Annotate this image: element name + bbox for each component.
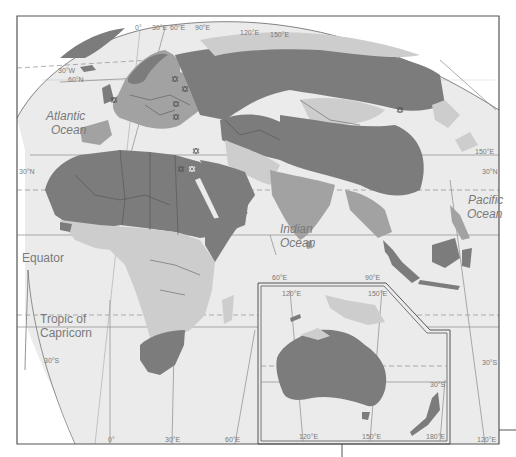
inset-tick-30s: 30°S	[430, 381, 446, 388]
tick-left-30s: 30°S	[44, 357, 60, 364]
world-map: Atlantic Ocean Indian Ocean Pacific Ocea…	[0, 0, 516, 457]
tick-right-30s: 30°S	[482, 359, 498, 366]
tick-left-30n: 30°N	[19, 168, 35, 175]
tick-top-60e: 60°E	[170, 24, 186, 31]
inset-tick-bottom-180e: 180°E	[426, 433, 445, 440]
inset-tick-top-150e: 150°E	[368, 290, 387, 297]
tick-top-30e: 30°E	[152, 24, 168, 31]
tick-bottom-120e: 120°E	[477, 436, 496, 443]
inset-tick-bottom-150e: 150°E	[362, 433, 381, 440]
indian-label-1: Indian	[280, 222, 313, 236]
tick-left-60n: 60°N	[68, 76, 84, 83]
atlantic-label-1: Atlantic	[45, 109, 85, 123]
pacific-label-2: Ocean	[467, 207, 503, 221]
tick-left-30w: 30°W	[58, 67, 76, 74]
tropic-label-2: Capricorn	[40, 326, 92, 340]
indian-label-2: Ocean	[280, 236, 316, 250]
tick-bottom-60e: 60°E	[225, 436, 241, 443]
tropic-label-1: Tropic of	[40, 312, 87, 326]
tick-mid-60e: 60°E	[272, 274, 288, 281]
atlantic-label-2: Ocean	[51, 123, 87, 137]
inset-tick-top-120e: 120°E	[282, 290, 301, 297]
tick-right-150e: 150°E	[475, 148, 494, 155]
tick-bottom-30e: 30°E	[165, 436, 181, 443]
tick-mid-90e: 90°E	[365, 274, 381, 281]
tick-top-0: 0°	[135, 24, 142, 31]
tick-bottom-0: 0°	[108, 436, 115, 443]
tick-top-150e: 150°E	[270, 31, 289, 38]
tick-top-90e: 90°E	[195, 24, 211, 31]
tick-right-30n: 30°N	[482, 168, 498, 175]
tick-top-120e: 120°E	[240, 29, 259, 36]
inset-tick-bottom-120e: 120°E	[299, 433, 318, 440]
pacific-label-1: Pacific	[468, 193, 503, 207]
equator-label: Equator	[22, 251, 64, 265]
